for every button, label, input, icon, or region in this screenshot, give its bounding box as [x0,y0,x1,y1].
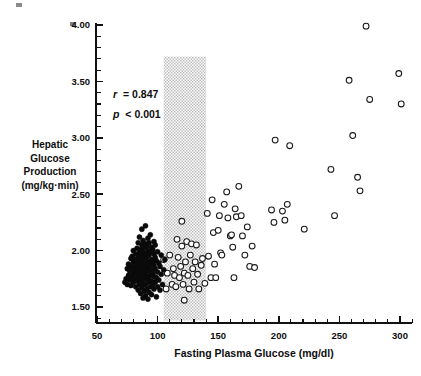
data-point-filled [157,288,162,293]
pvalue-value: < 0.001 [122,108,160,120]
data-point-open [190,266,196,272]
correlation-annotation: r = 0.847 [113,88,158,100]
data-point-open [186,286,192,292]
data-point-open [187,252,193,258]
x-tick-label: 200 [271,330,287,341]
data-point-filled [149,292,154,297]
x-tick-label: 100 [150,330,166,341]
data-point-open [224,189,230,195]
data-point-open [232,206,238,212]
data-point-open [328,166,334,172]
data-point-filled [159,253,164,258]
data-point-filled [162,257,167,262]
data-point-open [183,259,189,265]
data-point-open [240,233,246,239]
data-point-open [202,280,208,286]
data-point-open [244,224,250,230]
y-tick-label: 2.00 [72,245,91,256]
y-tick-label: 4.00 [72,19,91,30]
data-point-open [287,143,293,149]
pvalue-symbol: p [112,108,120,120]
data-point-open [167,252,173,258]
data-point-open [301,226,307,232]
scatter-plot-svg: 1.502.002.503.003.504.00 501001502002503… [0,0,421,376]
data-point-open [192,259,198,265]
data-point-open [200,256,206,262]
data-point-open [173,284,179,290]
data-point-open [272,137,278,143]
data-point-open [204,210,210,216]
data-point-open [177,275,183,281]
data-point-open [170,266,176,272]
data-point-open [249,243,255,249]
data-point-filled [154,294,159,299]
data-point-open [212,261,218,267]
x-tick-label: 150 [210,330,226,341]
data-point-open [282,217,288,223]
data-point-open [229,232,235,238]
y-tick-label: 3.50 [72,76,91,87]
data-point-open [396,71,402,77]
data-point-open [242,252,248,258]
data-point-open [217,213,223,219]
scan-artifact-top-left [16,3,22,7]
data-point-open [284,201,290,207]
y-tick-label: 3.00 [72,132,91,143]
data-point-open [180,282,186,288]
data-point-open [238,213,244,219]
data-point-open [198,262,204,268]
data-point-open [209,197,215,203]
y-axis-title-line: Production [24,166,77,177]
correlation-value: = 0.847 [120,88,158,100]
data-point-open [271,220,277,226]
data-point-open [215,227,221,233]
data-point-filled [161,267,166,272]
data-point-filled [143,223,148,228]
data-point-open [231,275,237,281]
y-axis-title-line: Glucose [30,153,70,164]
y-axis-title-line: Hepatic [32,139,69,150]
data-point-open [350,133,356,139]
data-point-open [236,183,242,189]
data-point-open [332,213,338,219]
chart-figure: 1.502.002.503.003.504.00 501001502002503… [0,0,421,376]
data-point-open [219,252,225,258]
data-point-filled [147,240,152,245]
data-point-open [206,253,212,259]
data-point-filled [153,242,158,247]
data-point-open [252,265,258,271]
data-point-open [230,244,236,250]
x-axis-title: Fasting Plasma Glucose (mg/dl) [174,347,333,359]
data-point-open [213,275,219,281]
data-point-open [398,101,404,107]
data-point-filled [160,282,165,287]
data-point-open [196,286,202,292]
data-point-open [221,201,227,207]
x-tick-label: 250 [331,330,347,341]
x-tick-label: 50 [92,330,103,341]
data-point-open [355,174,361,180]
data-point-open [174,236,180,242]
x-tick-label: 300 [392,330,408,341]
data-point-open [163,286,169,292]
data-point-open [357,188,363,194]
data-point-open [280,208,286,214]
data-point-filled [148,232,153,237]
data-point-open [178,263,184,269]
normal-range-band [164,57,206,321]
data-point-open [191,279,197,285]
y-axis-title-line: (mg/kg·min) [21,180,78,191]
data-point-open [363,23,369,29]
data-point-filled [156,277,161,282]
data-point-open [225,215,231,221]
data-point-open [185,273,191,279]
data-point-open [193,242,199,248]
data-point-open [346,77,352,83]
pvalue-annotation: p < 0.001 [112,108,161,120]
data-point-open [179,243,185,249]
data-point-open [367,97,373,103]
data-point-open [175,254,181,260]
normal-range-band-rect [164,57,206,321]
data-point-open [269,207,275,213]
data-point-open [179,218,185,224]
